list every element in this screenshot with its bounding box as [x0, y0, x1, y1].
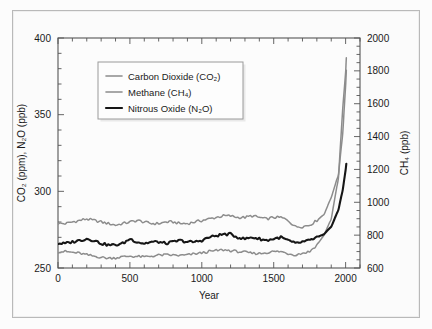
legend-label: Carbon Dioxide (CO₂)	[128, 71, 220, 82]
svg-text:1600: 1600	[367, 98, 390, 109]
svg-text:300: 300	[34, 186, 51, 197]
svg-text:1500: 1500	[263, 273, 286, 284]
svg-text:Year: Year	[199, 290, 220, 301]
svg-text:0: 0	[55, 273, 61, 284]
svg-text:1400: 1400	[367, 131, 390, 142]
svg-text:1200: 1200	[367, 164, 390, 175]
svg-text:800: 800	[367, 230, 384, 241]
svg-text:CO₂ (ppm), N₂O (ppb): CO₂ (ppm), N₂O (ppb)	[16, 104, 27, 202]
svg-text:400: 400	[34, 33, 51, 44]
chart-plot-wrapper: 0500100015002000250300350400600800100012…	[0, 0, 432, 329]
svg-text:250: 250	[34, 263, 51, 274]
svg-text:1000: 1000	[367, 197, 390, 208]
svg-text:CH₄ (ppb): CH₄ (ppb)	[399, 131, 410, 176]
svg-text:500: 500	[122, 273, 139, 284]
svg-text:350: 350	[34, 109, 51, 120]
svg-text:2000: 2000	[334, 273, 357, 284]
legend-label: Nitrous Oxide (N₂O)	[128, 103, 212, 114]
figure-container: 0500100015002000250300350400600800100012…	[0, 0, 432, 329]
greenhouse-gas-line-chart: 0500100015002000250300350400600800100012…	[0, 0, 432, 329]
legend-label: Methane (CH₄)	[128, 87, 192, 98]
legend-layer: Carbon Dioxide (CO₂)Methane (CH₄)Nitrous…	[98, 62, 246, 122]
svg-text:1800: 1800	[367, 65, 390, 76]
svg-text:1000: 1000	[191, 273, 214, 284]
svg-text:600: 600	[367, 263, 384, 274]
svg-text:2000: 2000	[367, 33, 390, 44]
